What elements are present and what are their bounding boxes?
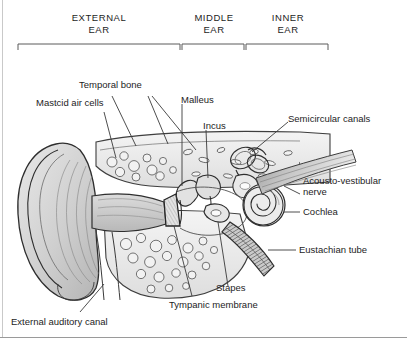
callout-temporal-bone: Temporal bone — [79, 79, 142, 90]
leader-nerve — [284, 186, 300, 194]
callout-mastoid-air-cells: Mastcid air cells — [36, 97, 104, 108]
pinna-auricle — [18, 143, 99, 300]
callout-cochlea: Cochlea — [303, 206, 338, 217]
bracket-middle — [182, 44, 244, 50]
region-label-external-ear: EXTERNAL EAR — [54, 12, 144, 35]
page-bottom-border — [0, 337, 407, 338]
callout-acousto-vestibular-nerve: Acousto-vestibular nerve — [303, 175, 381, 197]
callout-incus: Incus — [203, 120, 226, 131]
ear-anatomy-illustration — [0, 0, 407, 347]
callout-stapes: Stapes — [216, 282, 246, 293]
callout-external-auditory-canal: External auditory canal — [11, 316, 108, 327]
region-label-inner-ear: INNER EAR — [252, 12, 324, 35]
bracket-inner — [246, 44, 328, 50]
callout-tympanic-membrane: Tympanic membrane — [169, 299, 258, 310]
callout-semicircular-canals: Semicircular canals — [288, 113, 370, 124]
region-label-middle-ear: MIDDLE EAR — [176, 12, 252, 35]
callout-eustachian-tube: Eustachian tube — [299, 244, 367, 255]
region-brackets — [18, 44, 328, 50]
bracket-external — [18, 44, 180, 50]
page-left-border — [2, 0, 3, 337]
callout-malleus: Malleus — [181, 94, 214, 105]
